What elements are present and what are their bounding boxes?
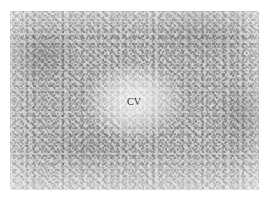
- figure-root: CV: [0, 0, 268, 200]
- central-vein-label: CV: [127, 96, 141, 107]
